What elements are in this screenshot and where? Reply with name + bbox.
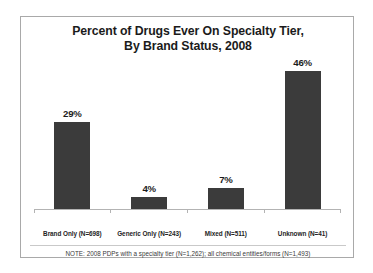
bar-slot-brand-only: 29%	[34, 59, 111, 209]
bar-value-generic-only: 4%	[142, 183, 155, 194]
chart-title: Percent of Drugs Ever On Specialty Tier,…	[31, 24, 345, 54]
bar-brand-only[interactable]	[54, 122, 90, 209]
bar-generic-only[interactable]	[131, 197, 167, 209]
bar-mixed[interactable]	[208, 188, 244, 209]
bar-value-brand-only: 29%	[63, 108, 82, 119]
axis-tick-1	[110, 209, 111, 213]
bar-slot-generic-only: 4%	[111, 59, 188, 209]
axis-tick-0	[34, 209, 35, 213]
axis-tick-2	[187, 209, 188, 213]
axis-tick-3	[264, 209, 265, 213]
axis-tick-4	[340, 209, 341, 213]
bar-value-mixed: 7%	[219, 174, 232, 185]
category-label-brand-only: Brand Only (N=698)	[34, 230, 111, 237]
note-separator	[30, 245, 346, 246]
bar-slot-unknown: 46%	[264, 59, 341, 209]
bar-value-unknown: 46%	[293, 57, 312, 68]
chart-frame: Percent of Drugs Ever On Specialty Tier,…	[20, 16, 354, 258]
chart-note: NOTE: 2008 PDPs with a specialty tier (N…	[30, 250, 346, 257]
plot-area: 29% 4% 7% 46%	[34, 59, 341, 209]
category-label-unknown: Unknown (N=41)	[264, 230, 341, 237]
category-label-generic-only: Generic Only (N=243)	[111, 230, 188, 237]
chart-title-line-1: Percent of Drugs Ever On Specialty Tier,	[31, 24, 345, 39]
category-label-row: Brand Only (N=698) Generic Only (N=243) …	[34, 230, 341, 242]
bar-slot-mixed: 7%	[188, 59, 265, 209]
chart-title-line-2: By Brand Status, 2008	[31, 39, 345, 54]
category-label-mixed: Mixed (N=511)	[188, 230, 265, 237]
bar-unknown[interactable]	[285, 71, 321, 209]
slide-canvas: Percent of Drugs Ever On Specialty Tier,…	[0, 0, 373, 273]
